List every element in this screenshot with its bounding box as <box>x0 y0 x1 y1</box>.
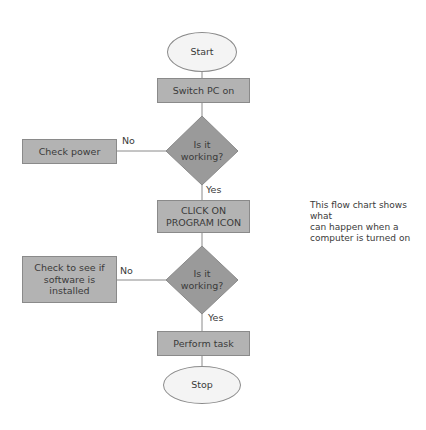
decision1-label-line1: Is it <box>170 139 234 151</box>
decision1-yes-label: Yes <box>206 184 221 195</box>
decision2-label: Is it working? <box>170 268 234 291</box>
decision2-label-line2: working? <box>170 280 234 292</box>
perform-task-process: Perform task <box>157 331 250 356</box>
flowchart-canvas: Start Switch PC on Is it working? Check … <box>0 0 426 430</box>
perform-task-label: Perform task <box>173 338 233 350</box>
check-software-line3: installed <box>49 285 89 297</box>
click-program-icon-process: CLICK ON PROGRAM ICON <box>157 200 250 233</box>
check-power-label: Check power <box>39 146 101 158</box>
check-software-line1: Check to see if <box>34 262 104 274</box>
switch-pc-on-process: Switch PC on <box>157 78 250 103</box>
decision1-no-label: No <box>122 135 135 146</box>
note-line3: computer is turned on <box>310 233 425 244</box>
click-label-line1: CLICK ON <box>181 205 226 217</box>
start-label: Start <box>190 46 213 58</box>
check-software-process: Check to see if software is installed <box>22 256 117 303</box>
decision1-label-line2: working? <box>170 151 234 163</box>
decision1-label: Is it working? <box>170 139 234 162</box>
stop-terminal: Stop <box>163 366 241 404</box>
note-line2: can happen when a <box>310 222 425 233</box>
decision2-label-line1: Is it <box>170 268 234 280</box>
check-software-line2: software is <box>44 274 95 286</box>
note-line1: This flow chart shows what <box>310 200 425 222</box>
decision2-yes-label: Yes <box>208 312 223 323</box>
explanatory-note: This flow chart shows what can happen wh… <box>310 200 425 244</box>
decision2-no-label: No <box>120 265 133 276</box>
stop-label: Stop <box>191 379 213 391</box>
start-terminal: Start <box>167 32 237 72</box>
check-power-process: Check power <box>22 139 117 164</box>
switch-pc-on-label: Switch PC on <box>173 85 235 97</box>
click-label-line2: PROGRAM ICON <box>166 217 241 229</box>
